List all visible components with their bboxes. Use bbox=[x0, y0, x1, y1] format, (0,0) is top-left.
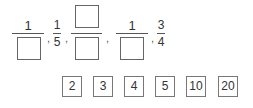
fraction-3-bar bbox=[71, 33, 102, 34]
choice-tile-4[interactable]: 4 bbox=[124, 76, 144, 97]
fraction-5-denominator: 4 bbox=[156, 36, 166, 49]
separator-comma: , bbox=[106, 33, 109, 44]
choice-tile-3[interactable]: 3 bbox=[93, 76, 113, 97]
fraction-4-numerator: 1 bbox=[126, 19, 138, 32]
fraction-4-bar bbox=[116, 33, 148, 34]
choice-tile-5[interactable]: 5 bbox=[155, 76, 175, 97]
fraction-4-denominator-blank[interactable] bbox=[120, 37, 144, 60]
fraction-2-bar bbox=[53, 33, 61, 34]
fraction-2-denominator: 5 bbox=[52, 36, 62, 49]
choice-tile-10[interactable]: 10 bbox=[186, 76, 206, 97]
fraction-3-denominator-blank[interactable] bbox=[75, 37, 99, 60]
choice-tile-20[interactable]: 20 bbox=[218, 76, 238, 97]
fraction-2-numerator: 1 bbox=[52, 19, 62, 32]
separator-comma: , bbox=[151, 33, 154, 44]
fraction-1-denominator-blank[interactable] bbox=[17, 37, 41, 60]
fraction-1-numerator: 1 bbox=[22, 19, 34, 32]
fraction-5-numerator: 3 bbox=[156, 19, 166, 32]
separator-comma: , bbox=[65, 33, 68, 44]
fraction-3-numerator-blank[interactable] bbox=[75, 5, 99, 28]
fraction-5-bar bbox=[157, 33, 165, 34]
fraction-1-bar bbox=[12, 33, 44, 34]
choice-tile-2[interactable]: 2 bbox=[62, 76, 82, 97]
separator-comma: , bbox=[47, 33, 50, 44]
